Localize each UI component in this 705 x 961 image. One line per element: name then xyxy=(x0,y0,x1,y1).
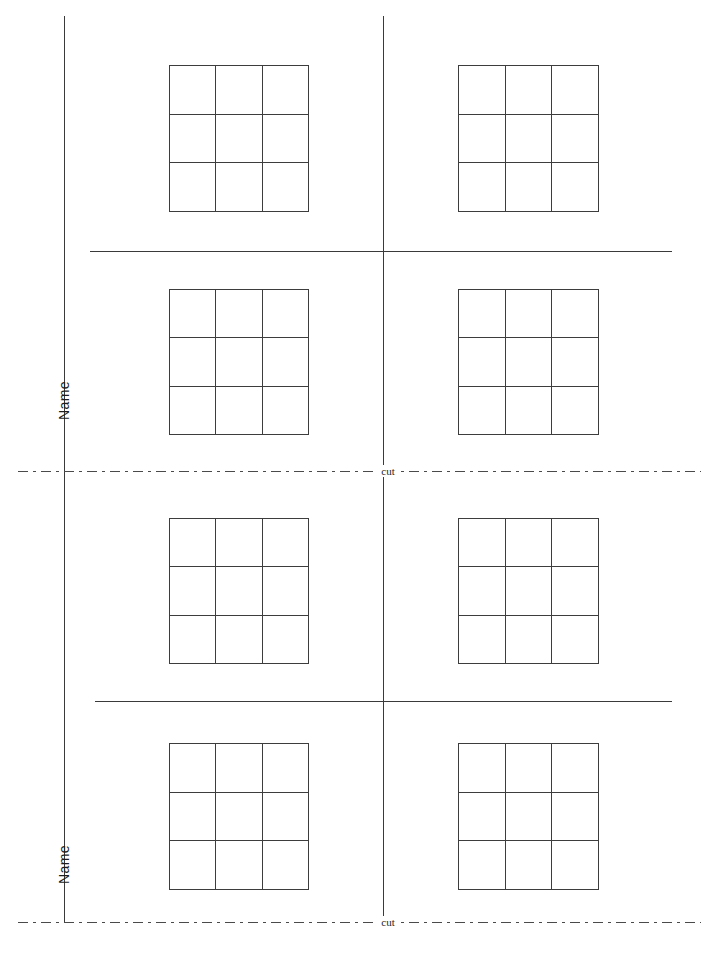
cut-label: cut xyxy=(376,465,399,477)
grid-cell[interactable] xyxy=(552,66,599,115)
number-grid xyxy=(169,518,309,664)
grid-cell[interactable] xyxy=(459,616,506,664)
grid-cell[interactable] xyxy=(552,793,599,842)
grid-cell[interactable] xyxy=(506,841,553,890)
grid-cell[interactable] xyxy=(506,387,553,435)
grid-cell[interactable] xyxy=(170,744,216,793)
grid-cell[interactable] xyxy=(552,841,599,890)
grid-cell[interactable] xyxy=(263,290,309,338)
grid-cell[interactable] xyxy=(216,66,262,115)
cut-label: cut xyxy=(376,916,399,928)
grid-cell[interactable] xyxy=(263,744,309,793)
grid-cell[interactable] xyxy=(506,793,553,842)
grid-cell[interactable] xyxy=(216,338,262,386)
grid-cell[interactable] xyxy=(552,163,599,212)
grid-cell[interactable] xyxy=(459,115,506,164)
number-grid xyxy=(169,65,309,212)
grid-cell[interactable] xyxy=(459,744,506,793)
grid-cell[interactable] xyxy=(170,66,216,115)
number-grid xyxy=(458,65,599,212)
grid-cell[interactable] xyxy=(216,163,262,212)
grid-cell[interactable] xyxy=(263,338,309,386)
grid-cell[interactable] xyxy=(459,338,506,386)
grid-cell[interactable] xyxy=(552,115,599,164)
grid-cell[interactable] xyxy=(506,567,553,615)
grid-cell[interactable] xyxy=(216,793,262,842)
grid-cell[interactable] xyxy=(170,519,216,567)
number-grid xyxy=(169,743,309,890)
grid-cell[interactable] xyxy=(552,290,599,338)
grid-cell[interactable] xyxy=(216,290,262,338)
grid-cell[interactable] xyxy=(506,115,553,164)
grid-cell[interactable] xyxy=(263,163,309,212)
grid-cell[interactable] xyxy=(552,387,599,435)
grid-cell[interactable] xyxy=(459,387,506,435)
grid-cell[interactable] xyxy=(552,567,599,615)
number-grid xyxy=(458,518,599,664)
grid-cell[interactable] xyxy=(506,616,553,664)
grid-cell[interactable] xyxy=(459,66,506,115)
grid-cell[interactable] xyxy=(263,66,309,115)
grid-cell[interactable] xyxy=(263,841,309,890)
grid-cell[interactable] xyxy=(506,163,553,212)
grid-cell[interactable] xyxy=(170,793,216,842)
grid-cell[interactable] xyxy=(216,387,262,435)
horizontal-rule xyxy=(90,251,672,252)
vertical-rule xyxy=(383,16,384,471)
grid-cell[interactable] xyxy=(459,519,506,567)
grid-cell[interactable] xyxy=(506,290,553,338)
grid-cell[interactable] xyxy=(170,290,216,338)
name-label: Name xyxy=(56,381,72,420)
grid-cell[interactable] xyxy=(506,744,553,793)
grid-cell[interactable] xyxy=(170,387,216,435)
grid-cell[interactable] xyxy=(552,616,599,664)
grid-cell[interactable] xyxy=(216,115,262,164)
grid-cell[interactable] xyxy=(459,290,506,338)
grid-cell[interactable] xyxy=(552,338,599,386)
grid-cell[interactable] xyxy=(263,387,309,435)
cut-line xyxy=(18,922,701,923)
grid-cell[interactable] xyxy=(263,793,309,842)
grid-cell[interactable] xyxy=(263,115,309,164)
grid-cell[interactable] xyxy=(216,841,262,890)
grid-cell[interactable] xyxy=(216,567,262,615)
grid-cell[interactable] xyxy=(552,744,599,793)
grid-cell[interactable] xyxy=(216,519,262,567)
cut-line xyxy=(18,471,701,472)
grid-cell[interactable] xyxy=(263,567,309,615)
grid-cell[interactable] xyxy=(263,519,309,567)
grid-cell[interactable] xyxy=(263,616,309,664)
grid-cell[interactable] xyxy=(506,338,553,386)
grid-cell[interactable] xyxy=(170,163,216,212)
grid-cell[interactable] xyxy=(170,567,216,615)
grid-cell[interactable] xyxy=(216,616,262,664)
number-grid xyxy=(169,289,309,435)
grid-cell[interactable] xyxy=(459,163,506,212)
grid-cell[interactable] xyxy=(459,567,506,615)
grid-cell[interactable] xyxy=(459,841,506,890)
grid-cell[interactable] xyxy=(170,616,216,664)
number-grid xyxy=(458,743,599,890)
horizontal-rule xyxy=(95,701,672,702)
worksheet-page: cutcutNameName xyxy=(0,0,705,961)
number-grid xyxy=(458,289,599,435)
grid-cell[interactable] xyxy=(506,66,553,115)
grid-cell[interactable] xyxy=(506,519,553,567)
name-label: Name xyxy=(56,845,72,884)
grid-cell[interactable] xyxy=(170,338,216,386)
grid-cell[interactable] xyxy=(170,841,216,890)
grid-cell[interactable] xyxy=(552,519,599,567)
vertical-rule xyxy=(383,471,384,922)
grid-cell[interactable] xyxy=(459,793,506,842)
grid-cell[interactable] xyxy=(170,115,216,164)
grid-cell[interactable] xyxy=(216,744,262,793)
